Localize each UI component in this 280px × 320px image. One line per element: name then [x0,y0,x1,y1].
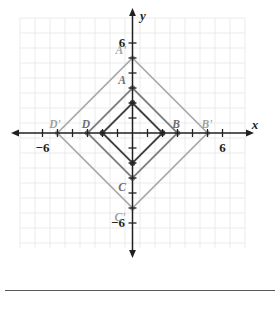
point-label-b: B [171,118,180,130]
y-axis-down-arrow [129,250,136,258]
coordinate-plane-figure: y x −6 6 6 −6 A' B' C' D' A B C D [0,0,280,320]
x-axis-left-arrow [11,130,19,137]
x-tick-label-6: 6 [219,140,226,155]
point-label-c-prime: C' [115,211,126,223]
point-label-c: C [118,181,126,193]
point-label-b-prime: B' [201,118,213,130]
point-label-a-prime: A' [115,44,127,56]
point-label-d-prime: D' [48,118,61,130]
x-tick-label-neg6: −6 [36,140,50,155]
point-label-d: D [81,118,91,130]
y-axis-up-arrow [129,8,136,16]
point-label-a: A [117,74,126,86]
y-axis-label: y [138,8,146,23]
x-axis-label: x [251,117,259,132]
